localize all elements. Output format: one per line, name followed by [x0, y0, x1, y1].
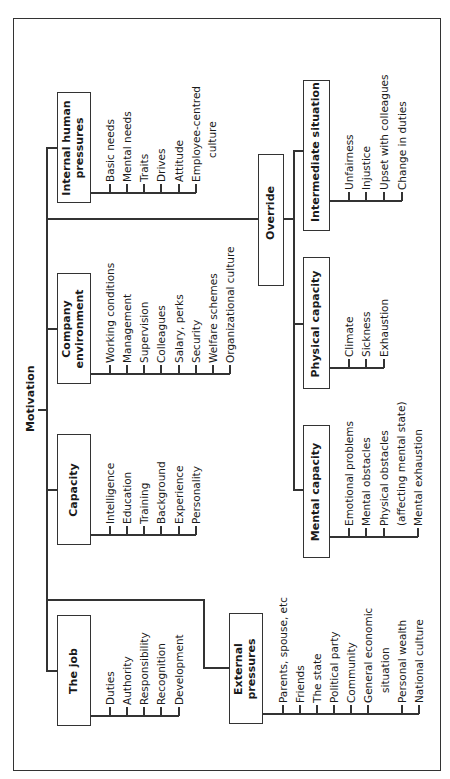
item-employee-centred: Employee-centred [190, 86, 202, 182]
item-training: Training [138, 483, 150, 524]
item-intelligence: Intelligence [104, 463, 116, 524]
item-supervision: Supervision [138, 302, 150, 363]
item-duties: Duties [104, 671, 116, 705]
item-affecting-mental-state: (affecting mental state) [395, 401, 407, 526]
items-bar-physical [329, 367, 384, 369]
main-spine [46, 147, 48, 671]
box-physical-capacity: Physical capacity [303, 257, 330, 389]
root-label-motivation: Motivation [24, 384, 37, 432]
box-external-pressures: External pressures [229, 613, 263, 724]
box-override: Override [258, 154, 284, 286]
item-sickness: Sickness [360, 312, 372, 358]
item-attitude: Attitude [173, 140, 185, 182]
item-education: Education [121, 472, 133, 524]
connector-override [46, 218, 259, 220]
box-mental-capacity: Mental capacity [303, 425, 330, 558]
item-mental-exhaustion: Mental exhaustion [412, 429, 424, 526]
items-bar-mental [329, 536, 418, 538]
item-political-party: Political party [328, 632, 340, 703]
box-internal-human-pressures: Internal human pressures [57, 92, 91, 203]
item-exhaustion: Exhaustion [378, 299, 390, 357]
item-the-state: The state [311, 654, 323, 703]
item-traits: Traits [138, 154, 150, 182]
item-drives: Drives [155, 149, 167, 182]
item-upset-with-colleagues: Upset with colleagues [378, 74, 390, 190]
box-company-environment: Company environment [57, 273, 91, 384]
item-mental-obstacles: Mental obstacles [360, 437, 372, 526]
item-personal-wealth: Personal wealth [396, 620, 408, 703]
box-capacity: Capacity [57, 434, 91, 545]
item-parents-spouse: Parents, spouse, etc [277, 597, 289, 703]
item-personality: Personality [190, 466, 202, 524]
item-experience: Experience [173, 465, 185, 524]
label-line: pressures [246, 621, 259, 717]
physical-label: Physical capacity [310, 268, 323, 380]
item-injustice: Injustice [360, 146, 372, 190]
items-bar-job [90, 715, 179, 717]
item-salary-perks: Salary, perks [173, 294, 185, 363]
label-line: pressures [74, 100, 87, 196]
item-national-culture: National culture [413, 619, 425, 703]
item-change-in-duties: Change in duties [396, 101, 408, 190]
connector-external-h [46, 599, 204, 601]
label-line: Company [61, 281, 74, 377]
item-community: Community [345, 642, 357, 703]
mental-label: Mental capacity [310, 436, 323, 548]
item-responsibility: Responsibility [138, 632, 150, 705]
item-background: Background [155, 461, 167, 524]
label-line: Internal human [61, 100, 74, 196]
item-general-economic: General economic [362, 608, 374, 703]
item-security: Security [190, 320, 202, 363]
item-organizational-culture: Organizational culture [224, 247, 236, 363]
item-situation: situation [379, 647, 391, 693]
item-climate: Climate [343, 317, 355, 357]
label-line: External [233, 621, 246, 717]
intermediate-label: Intermediate situation [310, 92, 323, 222]
box-intermediate-situation: Intermediate situation [303, 80, 330, 231]
item-authority: Authority [121, 656, 133, 705]
item-basic-needs: Basic needs [104, 119, 116, 182]
item-friends: Friends [294, 665, 306, 703]
box-the-job: The job [57, 615, 91, 726]
label-line: environment [74, 281, 87, 377]
item-welfare-schemes: Welfare schemes [207, 273, 219, 363]
override-spine [293, 150, 295, 490]
item-physical-obstacles: Physical obstacles [378, 430, 390, 526]
items-bar-external [262, 713, 419, 715]
label-line: Capacity [68, 442, 81, 538]
item-emotional-problems: Emotional problems [343, 421, 355, 526]
label-line: The job [68, 623, 81, 719]
item-management: Management [121, 294, 133, 363]
item-culture: culture [206, 121, 218, 158]
item-mental-needs: Mental needs [121, 111, 133, 182]
item-colleagues: Colleagues [155, 305, 167, 363]
item-development: Development [173, 634, 185, 705]
item-working-conditions: Working conditions [104, 263, 116, 363]
override-label: Override [265, 183, 278, 243]
connector-external-v [203, 599, 205, 668]
item-unfairness: Unfairness [343, 134, 355, 190]
connector-external-h2 [203, 667, 230, 669]
item-recognition: Recognition [155, 643, 167, 705]
